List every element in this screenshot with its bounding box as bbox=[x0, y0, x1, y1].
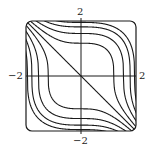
x-tick-right: 2 bbox=[139, 71, 145, 81]
y-tick-top: 2 bbox=[77, 7, 83, 17]
y-tick-bottom: −2 bbox=[73, 136, 88, 146]
contour-line bbox=[10, 7, 151, 148]
x-tick-left: −2 bbox=[8, 71, 23, 81]
